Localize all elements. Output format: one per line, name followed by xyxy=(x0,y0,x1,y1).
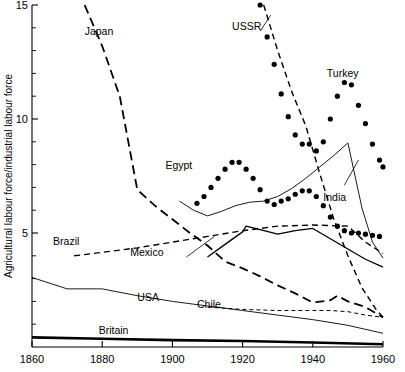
x-axis-tick-label: 1920 xyxy=(230,353,254,365)
data-point xyxy=(377,157,382,162)
data-point xyxy=(279,91,284,96)
series-layer xyxy=(32,2,386,344)
data-point xyxy=(380,164,385,169)
y-axis-tick-label: 15 xyxy=(16,0,28,11)
series-label-mexico: Mexico xyxy=(130,246,163,258)
data-point xyxy=(222,167,227,172)
series-brazil xyxy=(74,225,383,256)
data-point xyxy=(300,141,305,146)
data-point xyxy=(286,114,291,119)
data-point xyxy=(251,176,256,181)
data-point xyxy=(258,2,263,7)
series-label-turkey: Turkey xyxy=(327,67,359,79)
data-point xyxy=(272,202,277,207)
series-path xyxy=(32,337,383,344)
series-label-usa: USA xyxy=(137,291,159,303)
data-point xyxy=(215,176,220,181)
data-point xyxy=(307,188,312,193)
data-point xyxy=(356,103,361,108)
data-point xyxy=(244,167,249,172)
data-point xyxy=(293,132,298,137)
data-point xyxy=(356,230,361,235)
data-point xyxy=(321,139,326,144)
data-point xyxy=(279,198,284,203)
data-point xyxy=(300,188,305,193)
data-point xyxy=(265,34,270,39)
series-label-brazil: Brazil xyxy=(53,235,79,247)
data-point xyxy=(307,141,312,146)
series-ussr xyxy=(264,5,383,317)
data-point xyxy=(328,214,333,219)
x-axis-tick-label: 1860 xyxy=(20,353,44,365)
data-point xyxy=(349,82,354,87)
data-point xyxy=(363,232,368,237)
y-axis-tick-label: 5 xyxy=(22,227,28,239)
series-path xyxy=(208,307,384,317)
series-britain xyxy=(32,337,383,344)
data-point xyxy=(342,228,347,233)
series-chile xyxy=(208,307,384,317)
series-label-india: India xyxy=(323,191,346,203)
axes-layer: 51015186018801900192019401960 xyxy=(16,0,395,365)
data-point xyxy=(314,148,319,153)
data-point xyxy=(321,203,326,208)
y-axis-title-layer: Agricultural labour force/industrial lab… xyxy=(3,74,14,278)
data-point xyxy=(258,187,263,192)
data-point xyxy=(229,160,234,165)
data-point xyxy=(293,192,298,197)
data-point xyxy=(335,94,340,99)
series-label-ussr: USSR xyxy=(232,20,262,32)
data-point xyxy=(272,62,277,67)
data-point xyxy=(194,201,199,206)
label-leader-line xyxy=(260,15,271,31)
series-path xyxy=(74,225,383,256)
x-axis-tick-label: 1940 xyxy=(301,353,325,365)
data-point xyxy=(377,234,382,239)
series-turkey xyxy=(258,2,386,169)
data-point xyxy=(314,194,319,199)
data-point xyxy=(328,116,333,121)
data-point xyxy=(286,196,291,201)
y-axis-tick-label: 10 xyxy=(16,113,28,125)
x-axis-tick-label: 1880 xyxy=(90,353,114,365)
series-label-japan: Japan xyxy=(85,25,114,37)
data-point xyxy=(342,80,347,85)
series-path xyxy=(264,5,383,317)
series-labels-layer: JapanUSSRTurkeyEgyptIndiaBrazilMexicoChi… xyxy=(53,15,359,336)
series-label-egypt: Egypt xyxy=(165,159,192,171)
series-label-chile: Chile xyxy=(197,298,221,310)
y-axis-title: Agricultural labour force/industrial lab… xyxy=(3,74,14,278)
line-chart: 51015186018801900192019401960 JapanUSSRT… xyxy=(0,0,405,372)
data-point xyxy=(236,160,241,165)
data-point xyxy=(201,194,206,199)
x-axis-tick-label: 1900 xyxy=(160,353,184,365)
data-point xyxy=(363,121,368,126)
chart-container: 51015186018801900192019401960 JapanUSSRT… xyxy=(0,0,405,372)
series-label-britain: Britain xyxy=(99,324,129,336)
data-point xyxy=(208,185,213,190)
x-axis-tick-label: 1960 xyxy=(371,353,395,365)
data-point xyxy=(370,141,375,146)
